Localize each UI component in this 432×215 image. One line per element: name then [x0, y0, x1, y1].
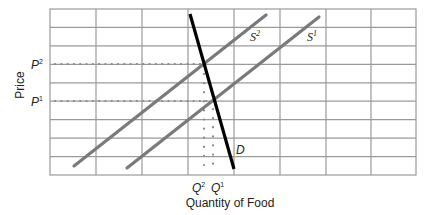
x-axis-title: Quantity of Food	[186, 196, 275, 210]
p1-label: P1	[31, 95, 43, 109]
demand-label: D	[236, 143, 245, 157]
y-axis-title: Price	[13, 71, 27, 99]
supply-demand-diagram: S2 S1 D P2 P1 Q2 Q1 Quantity of Food Pri…	[0, 0, 432, 215]
q1-label: Q1	[211, 181, 224, 195]
supply2-label: S2	[250, 29, 260, 44]
supply-curve-s1	[127, 17, 319, 168]
supply1-label: S1	[307, 29, 317, 44]
q2-label: Q2	[192, 181, 205, 195]
p2-label: P2	[31, 58, 43, 72]
grid	[50, 9, 416, 175]
